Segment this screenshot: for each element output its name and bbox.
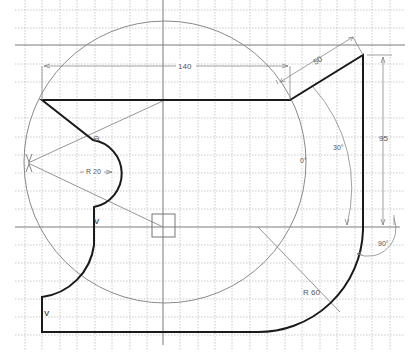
dimension-30-label: 30° bbox=[333, 144, 344, 151]
tangent-constraint-icon[interactable]: ⊖ bbox=[93, 134, 100, 143]
construction-circle[interactable] bbox=[24, 21, 306, 303]
dimension-0-label: 0° bbox=[300, 157, 307, 164]
dimension-r20-label: R 20 bbox=[86, 168, 101, 175]
sketch-canvas[interactable]: 140 50 95 30° 0° 90° R 20 R 60 V V ⊖ bbox=[0, 0, 411, 363]
dimension-90-label: 90° bbox=[378, 240, 389, 247]
axes bbox=[15, 0, 405, 345]
vertical-constraint-icon[interactable]: V bbox=[94, 217, 100, 226]
grid bbox=[15, 0, 405, 350]
construction-lines bbox=[28, 100, 340, 312]
vertical-constraint-icon-2[interactable]: V bbox=[44, 309, 50, 318]
dimension-140-label: 140 bbox=[178, 62, 192, 71]
dimension-r60-label: R 60 bbox=[303, 288, 320, 297]
symmetry-marker-icon bbox=[26, 154, 32, 172]
dimension-30-angle[interactable] bbox=[313, 87, 352, 225]
dimension-95-label: 95 bbox=[379, 134, 388, 143]
